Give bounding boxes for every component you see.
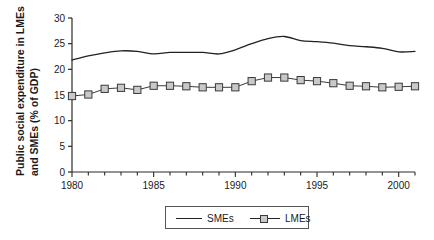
legend-line-icon: [176, 218, 202, 219]
data-point-marker: [362, 83, 369, 90]
data-point-marker: [85, 91, 92, 98]
chart-figure: Public social expenditure in LMEs and SM…: [0, 0, 434, 240]
legend-entry-smes: SMEs: [176, 207, 234, 230]
data-point-marker: [281, 74, 288, 81]
x-tick-label: 2000: [388, 180, 411, 191]
legend-label-lmes: LMEs: [285, 213, 311, 224]
data-point-marker: [395, 83, 402, 90]
y-tick-label: 25: [54, 38, 66, 49]
x-tick-label: 1990: [224, 180, 247, 191]
x-tick-label: 1995: [306, 180, 329, 191]
data-point-marker: [166, 82, 173, 89]
data-point-marker: [346, 82, 353, 89]
x-tick-label: 1980: [61, 180, 84, 191]
data-point-marker: [330, 80, 337, 87]
data-point-marker: [297, 77, 304, 84]
legend-label-smes: SMEs: [207, 213, 234, 224]
data-point-marker: [134, 86, 141, 93]
y-tick-label: 30: [54, 13, 66, 24]
x-tick-label: 1985: [143, 180, 166, 191]
data-point-marker: [101, 85, 108, 92]
data-point-marker: [150, 82, 157, 89]
data-point-marker: [264, 74, 271, 81]
data-point-marker: [379, 84, 386, 91]
data-point-marker: [199, 84, 206, 91]
legend-entry-lmes: LMEs: [250, 207, 311, 230]
data-point-marker: [117, 84, 124, 91]
data-point-marker: [183, 83, 190, 90]
data-point-marker: [411, 83, 418, 90]
y-tick-label: 0: [59, 167, 65, 178]
legend-square-marker-icon: [250, 214, 280, 224]
data-point-marker: [313, 78, 320, 85]
y-tick-label: 5: [59, 141, 65, 152]
data-point-marker: [248, 78, 255, 85]
data-point-marker: [232, 84, 239, 91]
data-point-marker: [215, 84, 222, 91]
y-tick-label: 20: [54, 64, 66, 75]
plot-area: 05101520253019801985199019952000: [0, 0, 434, 240]
data-point-marker: [68, 92, 75, 99]
y-tick-label: 10: [54, 115, 66, 126]
chart-legend: SMEs LMEs: [165, 206, 309, 229]
y-tick-label: 15: [54, 90, 66, 101]
series-line-smes: [72, 36, 415, 60]
